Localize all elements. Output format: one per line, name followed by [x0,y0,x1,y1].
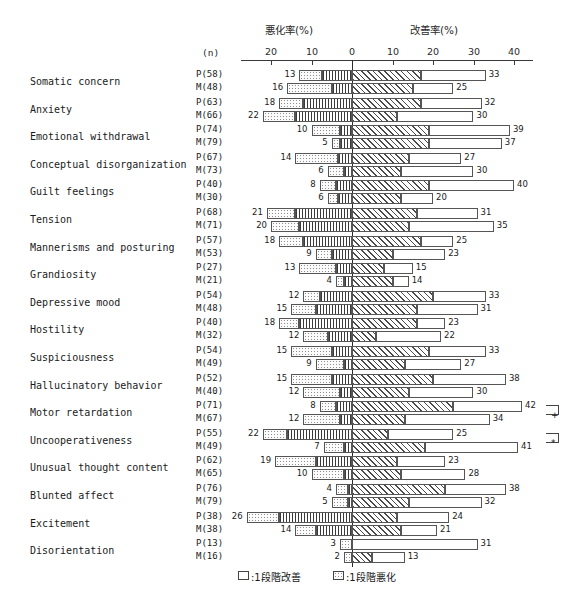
bar-p-worsen-row17-value-label: 3 [308,538,336,548]
bar-m-worsen-row5-outer-segment [271,221,299,232]
bar-m-worsen-row12-value-label: 12 [271,413,299,423]
bar-p-improve-row3-value-label: 27 [464,152,475,162]
item-label-depressive-mood: Depressive mood [30,297,120,308]
bar-p-worsen-row0-value-label: 13 [267,69,295,79]
significance-mark-motor-retardation: + [551,410,559,420]
bar-m-improve-row15-outer-segment [409,497,482,508]
bar-m-improve-row1-value-label: 30 [477,110,488,120]
n-label-p-row11: P(52) [196,373,223,383]
n-column-header: (n) [202,47,219,58]
bar-m-improve-row8-value-label: 31 [481,303,492,313]
bar-m-worsen-row4-value-label: 6 [296,192,324,202]
bar-p-worsen-row9-outer-segment [279,318,299,329]
bar-p-improve-row17-value-label: 31 [481,538,492,548]
bar-m-improve-row16-inner-segment [352,525,401,536]
n-label-p-row17: P(13) [196,538,223,548]
n-label-m-row14: M(65) [196,468,223,478]
legend-label-improve: :1段階改善 [251,569,301,584]
bar-p-improve-row14-outer-segment [397,456,446,467]
bar-m-worsen-row2-inner-segment [340,138,352,149]
bar-m-worsen-row6-outer-segment [316,249,332,260]
bar-m-worsen-row13-value-label: 7 [292,441,320,451]
bar-m-improve-row13-outer-segment [425,442,518,453]
bar-p-improve-row6-value-label: 25 [456,235,467,245]
bar-p-worsen-row15-outer-segment [336,484,348,495]
bar-p-worsen-row7-value-label: 13 [267,262,295,272]
n-label-p-row2: P(74) [196,124,223,134]
item-label-somatic-concern: Somatic concern [30,76,120,87]
bar-m-worsen-row13-outer-segment [324,442,344,453]
bar-m-worsen-row16-value-label: 14 [263,524,291,534]
n-label-p-row6: P(57) [196,235,223,245]
n-label-m-row3: M(73) [196,165,223,175]
bar-m-worsen-row14-outer-segment [312,469,344,480]
bar-p-improve-row12-outer-segment [453,401,522,412]
bar-p-worsen-row13-value-label: 22 [231,428,259,438]
bar-m-worsen-row10-value-label: 9 [284,358,312,368]
n-label-p-row9: P(40) [196,317,223,327]
bar-p-improve-row0-inner-segment [352,70,421,81]
bar-p-worsen-row2-value-label: 10 [280,124,308,134]
bar-m-worsen-row14-inner-segment [344,469,352,480]
n-label-m-row12: M(67) [196,413,223,423]
bar-m-worsen-row3-outer-segment [328,166,344,177]
bar-m-improve-row0-value-label: 25 [456,82,467,92]
item-label-suspiciousness: Suspiciousness [30,352,114,363]
bar-p-improve-row11-value-label: 38 [509,373,520,383]
bar-p-worsen-row16-outer-segment [247,512,279,523]
bar-m-improve-row6-inner-segment [352,249,393,260]
bar-m-improve-row7-value-label: 14 [412,275,423,285]
n-label-p-row13: P(55) [196,428,223,438]
bar-p-improve-row5-inner-segment [352,208,417,219]
bar-p-worsen-row9-inner-segment [299,318,352,329]
bar-p-worsen-row3-value-label: 14 [263,152,291,162]
item-label-motor-retardation: Motor retardation [30,407,132,418]
bar-m-improve-row6-value-label: 23 [448,248,459,258]
bar-p-worsen-row14-inner-segment [316,456,352,467]
n-label-m-row9: M(32) [196,330,223,340]
bar-p-worsen-row10-outer-segment [291,346,332,357]
n-label-p-row4: P(40) [196,179,223,189]
bar-p-improve-row0-value-label: 33 [489,69,500,79]
bar-p-worsen-row11-inner-segment [332,374,352,385]
bar-m-improve-row0-inner-segment [352,83,413,94]
n-label-m-row11: M(40) [196,386,223,396]
bar-p-worsen-row1-inner-segment [303,98,352,109]
bar-m-worsen-row17-value-label: 2 [312,551,340,561]
n-label-m-row15: M(79) [196,496,223,506]
bar-m-improve-row1-inner-segment [352,111,397,122]
bar-m-improve-row3-inner-segment [352,166,401,177]
bar-m-worsen-row12-outer-segment [303,414,339,425]
bar-m-improve-row3-outer-segment [401,166,474,177]
bar-p-worsen-row6-inner-segment [303,236,352,247]
bar-p-worsen-row12-inner-segment [336,401,352,412]
item-label-mannerisms-and-posturing: Mannerisms and posturing [30,242,175,253]
bar-m-worsen-row9-value-label: 12 [271,330,299,340]
bar-p-improve-row4-inner-segment [352,180,429,191]
bar-p-improve-row12-inner-segment [352,401,453,412]
bar-m-worsen-row15-outer-segment [332,497,348,508]
bar-m-worsen-row11-value-label: 12 [271,386,299,396]
bar-m-improve-row9-value-label: 22 [444,330,455,340]
bar-m-improve-row4-inner-segment [352,193,401,204]
n-label-p-row0: P(58) [196,69,223,79]
n-label-m-row17: M(16) [196,551,223,561]
bar-m-worsen-row15-value-label: 5 [300,496,328,506]
bar-m-worsen-row13-inner-segment [344,442,352,453]
bar-m-worsen-row5-inner-segment [299,221,352,232]
bar-p-worsen-row13-outer-segment [263,429,287,440]
n-label-m-row5: M(71) [196,220,223,230]
bar-p-improve-row7-inner-segment [352,263,384,274]
bar-m-improve-row5-value-label: 35 [497,220,508,230]
axis-tick-label-2: 0 [340,46,364,57]
bar-m-worsen-row7-value-label: 4 [304,275,332,285]
bar-p-worsen-row7-inner-segment [336,263,352,274]
bar-m-worsen-row2-outer-segment [332,138,340,149]
bar-m-improve-row12-inner-segment [352,414,405,425]
chart-canvas: 悪化率(%) 改善率(%) (n) 2010010203040 Somatic … [0,0,574,593]
bar-p-worsen-row8-outer-segment [303,291,319,302]
bar-m-worsen-row1-value-label: 22 [231,110,259,120]
bar-m-improve-row17-inner-segment [352,552,372,563]
bar-m-worsen-row12-inner-segment [340,414,352,425]
bar-m-improve-row10-inner-segment [352,359,405,370]
